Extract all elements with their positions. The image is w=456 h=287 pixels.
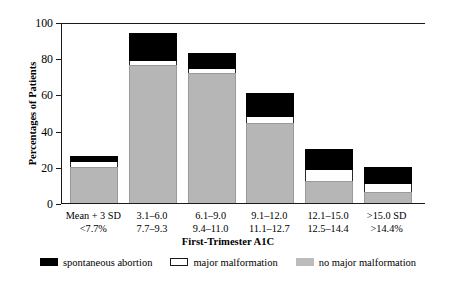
y-tick-mark xyxy=(56,204,61,205)
y-tick-label: 80 xyxy=(1,52,53,67)
y-axis-title: Percentages of Patients xyxy=(27,19,38,209)
bar-segment-major-malformation xyxy=(246,117,294,123)
chart-legend: spontaneous abortionmajor malformationno… xyxy=(0,252,456,272)
y-tick-label: 0 xyxy=(1,197,53,212)
bar-segment-no-major-malformation xyxy=(70,167,118,203)
bar xyxy=(246,93,294,203)
x-tick-label-line: >15.0 SD xyxy=(342,210,432,223)
bar xyxy=(129,33,177,203)
bar-segment-spontaneous-abortion xyxy=(129,33,177,61)
bar xyxy=(364,167,412,203)
gray-swatch-icon xyxy=(296,258,314,266)
legend-item: major malformation xyxy=(170,257,277,268)
bar-segment-spontaneous-abortion xyxy=(70,156,118,162)
bar-segment-spontaneous-abortion xyxy=(364,167,412,184)
bar-segment-spontaneous-abortion xyxy=(305,149,353,171)
y-tick-label: 20 xyxy=(1,161,53,176)
bar-segment-spontaneous-abortion xyxy=(246,93,294,117)
bar-segment-major-malformation xyxy=(305,170,353,181)
legend-item: no major malformation xyxy=(296,257,416,268)
chart-figure: Percentages of Patients 020406080100 Mea… xyxy=(0,0,456,287)
legend-item-label: spontaneous abortion xyxy=(63,257,153,268)
bar xyxy=(188,53,236,203)
x-tick-label-line: >14.4% xyxy=(342,223,432,236)
bar-segment-spontaneous-abortion xyxy=(188,53,236,69)
white-swatch-icon xyxy=(170,258,188,266)
bar-segment-no-major-malformation xyxy=(188,73,236,203)
black-swatch-icon xyxy=(40,258,58,266)
y-tick-label: 100 xyxy=(1,16,53,31)
bar-segment-major-malformation xyxy=(188,69,236,73)
bar xyxy=(70,156,118,203)
bar-segment-no-major-malformation xyxy=(305,181,353,203)
legend-item: spontaneous abortion xyxy=(40,257,153,268)
bar-segment-no-major-malformation xyxy=(364,192,412,203)
y-tick-label: 60 xyxy=(1,88,53,103)
bar-segment-major-malformation xyxy=(364,184,412,192)
bar xyxy=(305,149,353,203)
y-tick-label: 40 xyxy=(1,125,53,140)
legend-item-label: major malformation xyxy=(193,257,277,268)
plot-area xyxy=(61,23,425,204)
x-axis-title: First-Trimester A1C xyxy=(0,236,456,247)
bar-segment-no-major-malformation xyxy=(129,65,177,203)
bar-segment-major-malformation xyxy=(129,61,177,66)
bar-segment-no-major-malformation xyxy=(246,123,294,203)
bar-segment-major-malformation xyxy=(70,162,118,167)
x-tick-label-group: >15.0 SD>14.4% xyxy=(342,210,432,235)
legend-item-label: no major malformation xyxy=(319,257,416,268)
